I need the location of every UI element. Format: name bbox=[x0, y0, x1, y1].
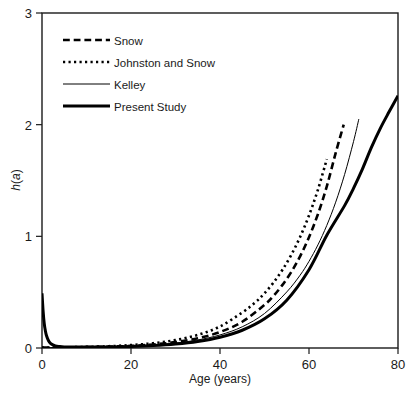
x-axis-title: Age (years) bbox=[189, 372, 251, 386]
x-tick-label-60: 60 bbox=[302, 357, 316, 372]
figure-container: 020406080 0123 Age (years) h(a) SnowJohn… bbox=[0, 0, 418, 397]
y-tick-label-3: 3 bbox=[25, 6, 32, 21]
x-tick-label-20: 20 bbox=[124, 357, 138, 372]
hazard-function-line-chart: 020406080 0123 Age (years) h(a) SnowJohn… bbox=[0, 0, 418, 397]
y-axis-title: h(a) bbox=[9, 169, 23, 190]
legend-item-snow-label: Snow bbox=[114, 35, 143, 47]
y-tick-label-1: 1 bbox=[25, 229, 32, 244]
x-tick-label-80: 80 bbox=[391, 357, 405, 372]
legend-item-kelley-label: Kelley bbox=[114, 79, 146, 91]
x-tick-label-40: 40 bbox=[213, 357, 227, 372]
y-axis-title-close-paren: ) bbox=[9, 169, 23, 173]
y-tick-label-0: 0 bbox=[25, 341, 32, 356]
legend-item-johnston-and-snow-label: Johnston and Snow bbox=[114, 57, 216, 69]
x-tick-label-0: 0 bbox=[38, 357, 45, 372]
y-tick-label-2: 2 bbox=[25, 118, 32, 133]
legend-item-present-study-label: Present Study bbox=[114, 101, 186, 113]
svg-text:h(a): h(a) bbox=[9, 169, 23, 190]
